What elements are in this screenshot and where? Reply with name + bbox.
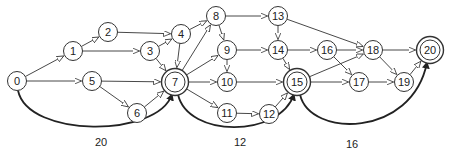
weighted-arc-15-20: [300, 63, 427, 124]
node-label: 13: [272, 10, 284, 22]
node-18: 18: [364, 41, 383, 60]
node-8: 8: [207, 7, 226, 26]
node-label: 18: [367, 44, 379, 56]
node-10: 10: [218, 73, 237, 92]
node-label: 17: [353, 76, 365, 88]
edge-3-7: [156, 58, 166, 70]
node-label: 16: [321, 44, 333, 56]
node-2: 2: [99, 23, 118, 42]
weighted-arc-0-7: [18, 91, 172, 127]
node-label: 15: [291, 76, 303, 88]
nodes-layer: 01234567891011121314151617181920: [8, 7, 444, 124]
edge-12-15: [275, 93, 287, 107]
arc-weight-label: 12: [234, 136, 246, 148]
node-1: 1: [64, 42, 83, 61]
node-label: 12: [263, 108, 275, 120]
node-20: 20: [417, 37, 444, 64]
node-label: 11: [221, 107, 232, 119]
node-6: 6: [128, 104, 147, 123]
node-0: 0: [8, 72, 27, 91]
node-label: 8: [213, 10, 219, 22]
node-label: 6: [134, 107, 140, 119]
node-13: 13: [269, 7, 288, 26]
node-label: 4: [178, 28, 184, 40]
node-label: 3: [147, 45, 153, 57]
node-19: 19: [395, 73, 414, 92]
node-label: 20: [424, 44, 436, 56]
node-5: 5: [83, 72, 102, 91]
edge-4-7: [177, 43, 180, 67]
node-15: 15: [284, 69, 311, 96]
node-12: 12: [260, 105, 279, 124]
network-diagram: 201216 01234567891011121314151617181920: [0, 0, 452, 154]
edge-1-2: [81, 37, 98, 46]
edge-18-19: [380, 57, 397, 75]
node-label: 14: [272, 44, 284, 56]
edge-11-12: [236, 113, 258, 114]
edge-6-7: [144, 91, 163, 107]
edge-7-9: [186, 56, 218, 75]
edge-3-4: [158, 39, 171, 46]
node-3: 3: [141, 42, 160, 61]
arc-weight-label: 20: [95, 136, 107, 148]
node-9: 9: [218, 41, 237, 60]
node-label: 1: [70, 45, 76, 57]
node-11: 11: [218, 104, 237, 123]
edge-5-6: [100, 87, 129, 107]
edges-layer: [25, 16, 420, 114]
edge-8-9: [219, 25, 224, 40]
graph-svg: 201216 01234567891011121314151617181920: [0, 0, 452, 154]
node-label: 9: [224, 44, 230, 56]
node-label: 5: [89, 75, 95, 87]
node-16: 16: [318, 41, 337, 60]
edge-14-15: [283, 58, 290, 69]
edge-7-11: [187, 89, 218, 108]
edge-0-1: [25, 56, 63, 77]
edge-5-7: [101, 81, 160, 82]
node-label: 2: [105, 26, 111, 38]
node-17: 17: [350, 73, 369, 92]
node-label: 7: [172, 76, 178, 88]
node-label: 0: [14, 75, 20, 87]
edge-19-20: [410, 61, 421, 74]
node-label: 19: [398, 76, 410, 88]
node-label: 10: [221, 76, 233, 88]
edge-2-4: [117, 32, 170, 33]
edge-4-8: [189, 21, 206, 30]
arc-weight-label: 16: [346, 138, 358, 150]
node-4: 4: [172, 25, 191, 44]
node-7: 7: [162, 69, 189, 96]
node-14: 14: [269, 41, 288, 60]
